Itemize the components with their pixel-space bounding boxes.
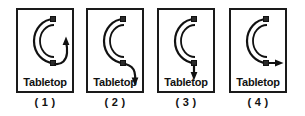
panel-4-caption: ( 4 ) <box>229 96 287 108</box>
tube-inner-wall <box>40 25 54 57</box>
panel-2-caption: ( 2 ) <box>86 96 144 108</box>
trajectory-arrowhead-4 <box>275 60 284 67</box>
tube-inner-wall <box>181 25 195 57</box>
tabletop-label-2: Tabletop <box>86 76 144 88</box>
panel-2: Tabletop <box>86 8 144 93</box>
tube-cap-top <box>192 17 197 22</box>
trajectory-path-1 <box>55 43 67 65</box>
tube-cap-top <box>51 17 56 22</box>
panel-1: Tabletop <box>16 8 74 93</box>
tube-cap-top <box>121 17 126 22</box>
trajectory-arrowhead-1 <box>63 37 70 46</box>
figure-root: Tabletop ( 1 ) Tabletop ( 2 ) Tabletop <box>0 0 305 116</box>
panel-3-caption: ( 3 ) <box>157 96 215 108</box>
tabletop-label-4: Tabletop <box>229 76 287 88</box>
panel-4: Tabletop <box>229 8 287 93</box>
tube-inner-wall <box>110 25 124 57</box>
tabletop-label-3: Tabletop <box>157 76 215 88</box>
tabletop-label-1: Tabletop <box>16 76 74 88</box>
panel-1-caption: ( 1 ) <box>16 96 74 108</box>
panel-3: Tabletop <box>157 8 215 93</box>
tube-cap-top <box>264 17 269 22</box>
tube-cap-bottom <box>264 61 269 66</box>
tube-inner-wall <box>253 25 267 57</box>
